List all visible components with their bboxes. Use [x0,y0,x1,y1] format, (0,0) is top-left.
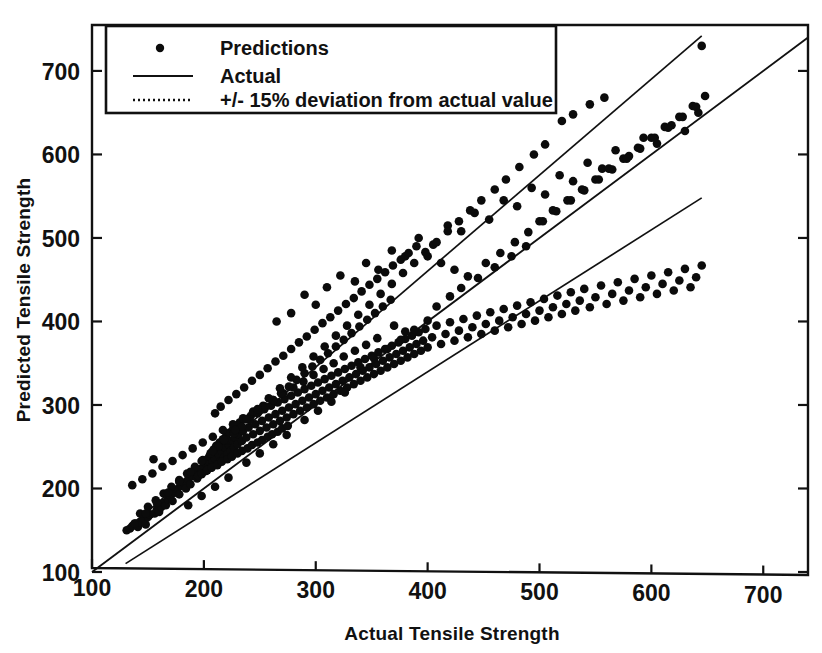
data-point [597,281,606,290]
data-point [354,310,363,319]
data-point [502,175,511,184]
data-point [373,334,382,343]
data-point [300,416,309,425]
data-point [639,133,648,142]
reference-line-minus15 [126,198,702,564]
data-point [446,318,455,327]
data-point [256,449,265,458]
data-point [355,322,364,331]
data-point [197,492,206,501]
data-point [211,483,220,492]
data-point [287,345,296,354]
data-point [149,455,158,464]
data-point [341,388,350,397]
data-point [675,276,684,285]
x-tick-label: 200 [185,576,223,602]
data-point [681,127,690,136]
data-point [541,140,550,149]
data-point [308,362,317,371]
data-point [351,346,360,355]
y-tick-label: 500 [42,226,80,252]
data-point [611,146,620,155]
data-point [522,310,531,319]
data-point [381,268,390,277]
data-point [450,336,459,345]
legend-label-deviation: +/- 15% deviation from actual value [220,89,553,111]
data-point [327,397,336,406]
data-point [373,275,382,284]
data-point [168,457,177,466]
data-point [583,158,592,167]
data-point [580,285,589,294]
data-point [681,265,690,274]
data-point [477,196,486,205]
data-point [388,246,397,255]
data-point [414,234,423,243]
data-point [450,265,459,274]
data-point [320,342,329,351]
data-point [524,228,533,237]
data-point [457,227,466,236]
data-point [332,331,341,340]
data-point [362,341,371,350]
data-point [351,277,360,286]
x-tick-label: 700 [744,582,782,608]
data-point [303,332,312,341]
data-point [647,271,656,280]
data-point [295,338,304,347]
data-point [504,323,513,332]
data-point [175,478,184,487]
data-point [128,481,137,490]
data-point [701,92,710,101]
data-point [318,319,327,328]
data-point [653,290,662,299]
data-point [558,117,567,126]
data-point [311,300,320,309]
data-point [349,294,358,303]
chart-figure: 1002003004005006007001002003004005006007… [0,0,822,653]
y-tick-label: 700 [42,59,80,85]
data-point [386,295,395,304]
data-point [178,451,187,460]
data-point [678,113,687,122]
data-point [567,196,576,205]
data-point [437,340,446,349]
data-point [371,309,380,318]
data-point [569,110,578,119]
data-point [541,190,550,199]
data-point [242,415,251,424]
data-point [591,293,600,302]
data-point [390,321,399,330]
data-point [482,259,491,268]
data-point [535,306,544,315]
data-point [404,249,413,258]
data-point [485,215,494,224]
data-point [614,278,623,287]
data-point [443,227,452,236]
data-point [441,330,450,339]
data-point [283,422,292,431]
data-point [310,326,319,335]
data-point [499,196,508,205]
data-point [141,520,150,529]
data-point [363,315,372,324]
x-axis-title: Actual Tensile Strength [344,623,559,644]
data-point [555,171,564,180]
prediction-points [122,42,709,535]
data-point [232,390,241,399]
data-point [168,497,177,506]
data-point [464,333,473,342]
data-point [539,217,548,226]
data-point [261,402,270,411]
data-point [586,100,595,109]
data-point [625,286,634,295]
data-point [571,306,580,315]
data-point [664,268,673,277]
data-point [287,373,296,382]
data-point [608,290,617,299]
data-point [343,321,352,330]
x-tick-label: 300 [297,577,335,603]
data-point [650,133,659,142]
data-point [477,330,486,339]
data-point [298,363,307,372]
